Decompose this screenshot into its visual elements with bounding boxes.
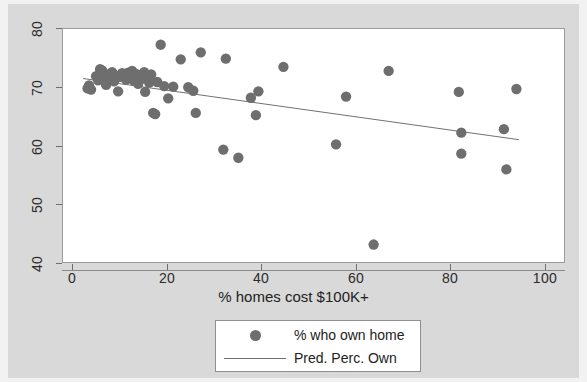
- scatter-point: [368, 239, 378, 249]
- y-tick-mark: [56, 263, 62, 264]
- scatter-point: [383, 66, 393, 76]
- y-tick-label: 70: [29, 73, 45, 103]
- scatter-point: [188, 86, 198, 96]
- legend-marker-line-icon: [216, 358, 294, 359]
- y-tick-label: 50: [29, 190, 45, 220]
- legend-entry-label: % who own home: [294, 327, 405, 343]
- x-axis-line: [62, 270, 565, 271]
- scatter-point: [511, 84, 521, 94]
- scatter-point: [456, 128, 466, 138]
- scatter-point: [140, 87, 150, 97]
- scatter-point: [341, 91, 351, 101]
- y-tick-mark: [56, 146, 62, 147]
- x-tick-label: 100: [525, 270, 565, 286]
- x-tick-label: 80: [430, 270, 470, 286]
- y-tick-label: 40: [29, 249, 45, 279]
- scatter-point: [456, 148, 466, 158]
- legend-entry: Pred. Perc. Own: [216, 346, 420, 370]
- legend-entry-label: Pred. Perc. Own: [294, 350, 397, 366]
- scatter-point: [221, 54, 231, 64]
- x-tick-label: 0: [52, 270, 92, 286]
- scatter-point: [191, 108, 201, 118]
- legend-entry: % who own home: [216, 323, 420, 347]
- scatter-point: [331, 139, 341, 149]
- plot-area: [62, 28, 565, 263]
- x-axis-title: % homes cost $100K+: [0, 288, 587, 305]
- plot-svg: [63, 29, 564, 262]
- scatter-point: [218, 144, 228, 154]
- scatter-point: [454, 87, 464, 97]
- scatter-point: [168, 82, 178, 92]
- scatter-point: [150, 109, 160, 119]
- scatter-points: [82, 40, 521, 250]
- scatter-point: [251, 110, 261, 120]
- scatter-point: [501, 164, 511, 174]
- scatter-chart-figure: 40 50 60 70 80 0 20 40 60 80 100 % homes…: [0, 0, 587, 382]
- x-tick-label: 20: [147, 270, 187, 286]
- scatter-point: [196, 47, 206, 57]
- scatter-point: [253, 86, 263, 96]
- scatter-point: [156, 40, 166, 50]
- scatter-point: [278, 62, 288, 72]
- chart-legend: % who own home Pred. Perc. Own: [215, 320, 421, 372]
- y-tick-mark: [56, 204, 62, 205]
- y-tick-label: 60: [29, 132, 45, 162]
- scatter-point: [86, 84, 96, 94]
- scatter-point: [233, 153, 243, 163]
- y-tick-mark: [56, 87, 62, 88]
- x-tick-label: 40: [241, 270, 281, 286]
- scatter-point: [499, 124, 509, 134]
- y-tick-mark: [56, 28, 62, 29]
- scatter-point: [176, 54, 186, 64]
- scatter-point: [163, 93, 173, 103]
- y-tick-label: 80: [29, 14, 45, 44]
- scatter-point: [113, 86, 123, 96]
- legend-marker-dot-icon: [216, 330, 294, 341]
- scatter-point: [159, 81, 169, 91]
- x-tick-label: 60: [336, 270, 376, 286]
